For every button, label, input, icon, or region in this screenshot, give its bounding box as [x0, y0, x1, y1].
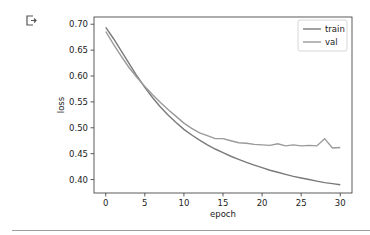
legend-train-label: train: [325, 24, 345, 34]
legend-val-label: val: [325, 37, 338, 47]
x-tick-label: 10: [178, 198, 189, 208]
y-tick-label: 0.70: [69, 19, 88, 29]
y-tick-label: 0.50: [69, 123, 88, 133]
x-tick-label: 30: [335, 198, 346, 208]
loss-chart: 051015202530 0.400.450.500.550.600.650.7…: [0, 0, 370, 235]
y-tick-label: 0.45: [69, 149, 88, 159]
output-separator: [12, 230, 370, 231]
x-ticks: 051015202530: [103, 193, 346, 208]
x-axis-label: epoch: [210, 209, 236, 219]
y-tick-label: 0.65: [69, 45, 88, 55]
y-tick-label: 0.55: [69, 97, 88, 107]
x-tick-label: 15: [218, 198, 229, 208]
x-tick-label: 5: [142, 198, 147, 208]
y-tick-label: 0.60: [69, 71, 88, 81]
x-tick-label: 20: [257, 198, 268, 208]
y-axis-label: loss: [56, 96, 66, 113]
x-tick-label: 0: [103, 198, 108, 208]
x-tick-label: 25: [296, 198, 307, 208]
legend: train val: [298, 20, 347, 51]
y-ticks: 0.400.450.500.550.600.650.70: [69, 19, 94, 184]
y-tick-label: 0.40: [69, 175, 88, 185]
